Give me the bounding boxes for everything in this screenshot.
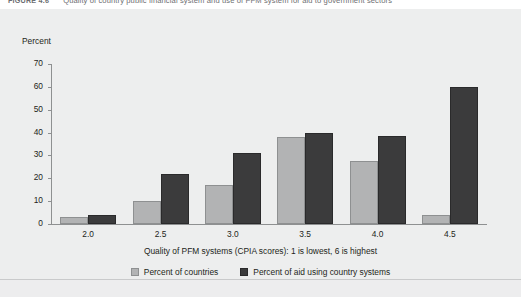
legend-swatch-icon bbox=[131, 268, 139, 276]
legend-item[interactable]: Percent of aid using country systems bbox=[240, 267, 390, 277]
bar-group: 2.0 bbox=[60, 64, 116, 224]
x-axis-tick-label: 3.0 bbox=[205, 229, 261, 239]
bar-countries bbox=[350, 161, 378, 224]
y-axis-tick-label: 0 bbox=[38, 218, 43, 228]
figure-caption-strip: FIGURE 4.6Quality of country public fina… bbox=[0, 0, 521, 9]
x-axis-title: Quality of PFM systems (CPIA scores): 1 … bbox=[0, 246, 521, 256]
y-axis-tick-label: 70 bbox=[34, 58, 43, 68]
bar-countries bbox=[133, 201, 161, 224]
bar-aid bbox=[233, 153, 261, 224]
x-axis-tick-label: 4.0 bbox=[350, 229, 406, 239]
bar-aid bbox=[450, 87, 478, 224]
y-axis-tick-label: 50 bbox=[34, 104, 43, 114]
figure-caption: FIGURE 4.6Quality of country public fina… bbox=[8, 0, 392, 5]
panel-footer bbox=[0, 280, 521, 297]
bar-countries bbox=[60, 217, 88, 224]
y-axis-tick-label: 20 bbox=[34, 172, 43, 182]
legend-item[interactable]: Percent of countries bbox=[131, 267, 218, 277]
figure-page: FIGURE 4.6Quality of country public fina… bbox=[0, 0, 521, 297]
x-axis-tick-label: 2.0 bbox=[60, 229, 116, 239]
y-axis-tick-label: 40 bbox=[34, 127, 43, 137]
x-axis-tick-label: 3.5 bbox=[277, 229, 333, 239]
legend-label: Percent of aid using country systems bbox=[253, 267, 390, 277]
bar-countries bbox=[205, 185, 233, 224]
plot-area: 2.02.53.03.54.04.5 bbox=[52, 64, 486, 224]
bar-group: 4.0 bbox=[350, 64, 406, 224]
bar-group: 4.5 bbox=[422, 64, 478, 224]
bar-aid bbox=[378, 136, 406, 224]
bar-group: 3.0 bbox=[205, 64, 261, 224]
y-axis-tick-label: 60 bbox=[34, 81, 43, 91]
bar-group: 3.5 bbox=[277, 64, 333, 224]
x-axis-line bbox=[51, 224, 487, 225]
y-axis-title: Percent bbox=[22, 36, 51, 46]
x-axis-tick-label: 2.5 bbox=[133, 229, 189, 239]
y-axis-tick-label: 30 bbox=[34, 149, 43, 159]
y-axis-tick-label: 10 bbox=[34, 195, 43, 205]
legend-label: Percent of countries bbox=[144, 267, 218, 277]
legend-swatch-icon bbox=[240, 268, 248, 276]
figure-caption-text: Quality of country public financial syst… bbox=[63, 0, 392, 5]
bar-countries bbox=[277, 137, 305, 224]
y-axis-tick-mark bbox=[48, 224, 52, 225]
bar-aid bbox=[161, 174, 189, 224]
figure-number: FIGURE 4.6 bbox=[8, 0, 49, 5]
x-axis-tick-label: 4.5 bbox=[422, 229, 478, 239]
chart-panel: Percent 010203040506070 2.02.53.03.54.04… bbox=[0, 9, 521, 279]
bar-group: 2.5 bbox=[133, 64, 189, 224]
bar-aid bbox=[88, 215, 116, 224]
chart-legend: Percent of countriesPercent of aid using… bbox=[0, 267, 521, 277]
bar-aid bbox=[305, 133, 333, 224]
bar-countries bbox=[422, 215, 450, 224]
